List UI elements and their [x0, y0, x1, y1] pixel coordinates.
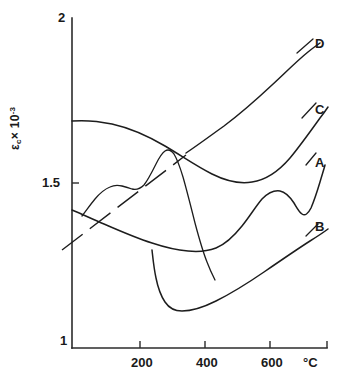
y-tick-label-1: 1	[60, 333, 67, 348]
curve-label-d: D	[315, 36, 324, 51]
x-tick-label-200: 200	[131, 355, 153, 370]
x-tick-label-400: 400	[196, 355, 218, 370]
leader-line-c	[302, 103, 316, 118]
curve-label-c: C	[315, 102, 324, 117]
x-tick-label-600: 600	[261, 355, 283, 370]
y-axis-multiplier: × 10	[8, 114, 22, 139]
curve-b-path	[152, 229, 328, 311]
y-axis-subscript: c	[14, 139, 23, 144]
dashed-guide-line	[62, 155, 186, 250]
curve-label-b: B	[315, 219, 324, 234]
y-tick-label-2: 2	[58, 10, 65, 25]
leader-line-d	[297, 39, 313, 53]
y-axis-exponent: -3	[8, 107, 17, 115]
y-tick-label-1-5: 1.5	[42, 175, 60, 190]
plot-canvas	[0, 0, 346, 386]
y-axis-symbol: ε	[8, 144, 22, 150]
curve-d-path	[186, 43, 320, 153]
curve-a-path	[72, 165, 325, 251]
curve-peak-path	[82, 150, 215, 280]
y-axis-title: εc× 10-3	[8, 116, 23, 150]
chart-figure: εc× 10-3 2 1.5 1 200 400 600 °C A B C D	[0, 0, 346, 386]
x-axis-unit-label: °C	[303, 355, 318, 370]
curve-c-path	[72, 107, 328, 183]
curve-label-a: A	[315, 155, 324, 170]
